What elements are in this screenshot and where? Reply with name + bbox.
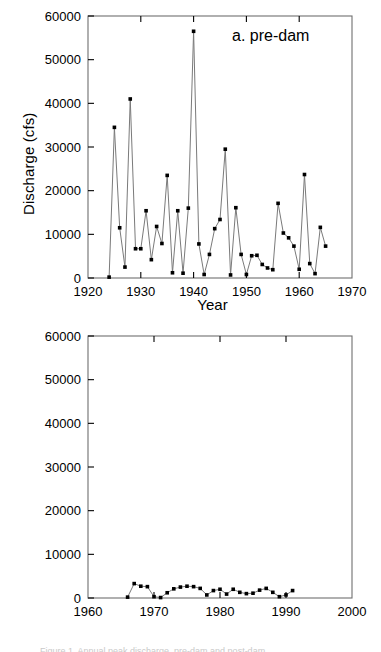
pre-dam-data-point [234, 206, 238, 210]
pre-dam-plot-frame [88, 16, 352, 278]
pre-dam-data-point [250, 254, 254, 258]
pre-dam-data-point [292, 244, 296, 248]
pre-dam-data-point [144, 209, 148, 213]
chart-panel-post-dam: 0100002000030000400005000060000196019701… [0, 320, 381, 646]
pre-dam-data-point [276, 202, 280, 206]
pre-dam-data-point [213, 227, 217, 231]
post-dam-data-point [185, 584, 189, 588]
pre-dam-data-point [181, 271, 185, 275]
post-dam-data-point [258, 588, 262, 592]
post-dam-data-point [271, 591, 275, 595]
post-dam-data-point [212, 589, 216, 593]
pre-dam-data-point [171, 271, 175, 275]
pre-dam-data-point [260, 263, 264, 267]
pre-dam-data-point [155, 225, 159, 229]
post-dam-data-point [225, 592, 229, 596]
pre-dam-data-point [160, 242, 164, 246]
post-dam-data-point [152, 595, 156, 599]
pre-dam-data-point [165, 174, 169, 178]
post-dam-x-ticklabel: 1970 [140, 604, 169, 619]
post-dam-data-point [159, 596, 163, 600]
post-dam-data-point [126, 595, 130, 599]
pre-dam-data-point [150, 258, 154, 262]
post-dam-data-point [198, 587, 202, 591]
pre-dam-data-point [266, 266, 270, 270]
post-dam-x-ticklabel: 2000 [338, 604, 367, 619]
post-dam-data-point [238, 591, 242, 595]
post-dam-data-point [264, 587, 268, 591]
post-dam-plot: 0100002000030000400005000060000196019701… [0, 320, 381, 646]
post-dam-data-point [165, 591, 169, 595]
post-dam-y-ticklabel: 60000 [45, 329, 81, 344]
post-dam-y-ticklabel: 10000 [45, 547, 81, 562]
pre-dam-data-point [287, 236, 291, 240]
pre-dam-data-point [113, 126, 117, 130]
pre-dam-y-ticklabel: 50000 [45, 52, 81, 67]
post-dam-data-point [218, 587, 222, 591]
post-dam-data-point [245, 592, 249, 596]
pre-dam-data-point [324, 244, 328, 248]
post-dam-data-point [284, 593, 288, 597]
pre-dam-data-point [197, 242, 201, 246]
post-dam-data-point [278, 595, 282, 599]
post-dam-data-point [205, 593, 209, 597]
pre-dam-data-point [282, 231, 286, 235]
post-dam-y-ticklabel: 40000 [45, 416, 81, 431]
post-dam-data-point [231, 587, 235, 591]
post-dam-x-ticklabel: 1960 [74, 604, 103, 619]
pre-dam-y-ticklabel: 40000 [45, 96, 81, 111]
panel-label-a: a. pre-dam [232, 27, 309, 45]
pre-dam-data-point [107, 275, 111, 279]
pre-dam-data-point [218, 218, 222, 222]
pre-dam-data-point [245, 273, 249, 277]
pre-dam-plot: 0100002000030000400005000060000192019301… [0, 0, 381, 326]
pre-dam-y-ticklabel: 20000 [45, 183, 81, 198]
post-dam-data-point [291, 589, 295, 593]
post-dam-y-ticklabel: 30000 [45, 460, 81, 475]
pre-dam-data-point [123, 265, 127, 269]
post-dam-x-ticklabel: 1990 [272, 604, 301, 619]
post-dam-data-point [192, 585, 196, 589]
pre-dam-data-point [303, 173, 307, 177]
pre-dam-y-ticklabel: 60000 [45, 9, 81, 24]
post-dam-data-point [132, 582, 136, 586]
chart-panel-pre-dam: 0100002000030000400005000060000192019301… [0, 0, 381, 326]
pre-dam-data-point [319, 226, 323, 230]
pre-dam-data-point [208, 253, 212, 257]
pre-dam-y-ticklabel: 10000 [45, 227, 81, 242]
post-dam-data-point [146, 585, 150, 589]
pre-dam-data-point [187, 206, 191, 210]
pre-dam-data-point [308, 262, 312, 266]
post-dam-plot-frame [88, 336, 352, 598]
pre-dam-data-point [223, 147, 227, 151]
y-axis-title-a: Discharge (cfs) [20, 113, 37, 215]
pre-dam-data-point [128, 97, 132, 101]
post-dam-data-point [179, 585, 183, 589]
pre-dam-y-ticklabel: 30000 [45, 140, 81, 155]
pre-dam-data-point [176, 209, 180, 213]
pre-dam-data-point [202, 273, 206, 277]
pre-dam-data-point [229, 273, 233, 277]
pre-dam-data-point [134, 247, 138, 251]
post-dam-y-ticklabel: 50000 [45, 372, 81, 387]
figure-container: 0100002000030000400005000060000192019301… [0, 0, 381, 652]
post-dam-x-ticklabel: 1980 [206, 604, 235, 619]
post-dam-data-point [251, 591, 255, 595]
pre-dam-data-point [192, 29, 196, 33]
pre-dam-data-point [271, 268, 275, 272]
pre-dam-data-point [118, 226, 122, 230]
pre-dam-data-point [313, 272, 317, 276]
pre-dam-series-line [109, 31, 325, 277]
post-dam-data-point [172, 587, 176, 591]
post-dam-data-point [139, 584, 143, 588]
pre-dam-data-point [255, 253, 259, 257]
pre-dam-data-point [239, 253, 243, 257]
x-axis-title-a: Year [22, 296, 381, 313]
post-dam-y-ticklabel: 20000 [45, 503, 81, 518]
pre-dam-data-point [139, 247, 143, 251]
pre-dam-data-point [297, 267, 301, 271]
figure-caption: Figure 1. Annual peak discharge, pre-dam… [40, 646, 370, 652]
